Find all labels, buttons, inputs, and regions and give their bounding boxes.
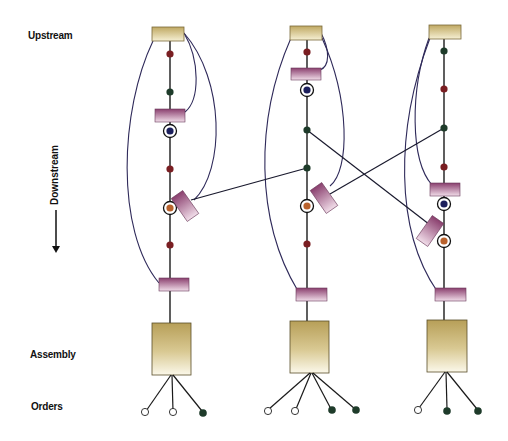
green-node[interactable]	[440, 124, 447, 131]
column-1	[141, 27, 206, 417]
flow-curves	[127, 33, 437, 291]
assembly-box[interactable]	[152, 323, 191, 375]
downstream-arrow-icon	[52, 210, 60, 253]
red-node[interactable]	[440, 163, 447, 170]
order-filled[interactable]	[328, 406, 336, 414]
assembly-box[interactable]	[427, 320, 467, 372]
orange-node[interactable]	[303, 202, 310, 209]
order-open[interactable]	[414, 406, 421, 413]
buffer-bar[interactable]	[155, 109, 185, 122]
source-box[interactable]	[290, 26, 322, 40]
orange-node[interactable]	[166, 204, 173, 211]
red-node[interactable]	[166, 50, 173, 57]
red-node[interactable]	[303, 48, 310, 55]
blue-node[interactable]	[440, 200, 447, 207]
buffer-bar[interactable]	[159, 278, 189, 291]
red-node[interactable]	[303, 240, 310, 247]
green-node[interactable]	[303, 164, 310, 171]
buffer-bar[interactable]	[291, 68, 321, 80]
column-3	[414, 25, 481, 415]
red-node[interactable]	[166, 165, 173, 172]
order-filled[interactable]	[199, 409, 207, 417]
assembly-box[interactable]	[290, 321, 329, 373]
source-box[interactable]	[152, 27, 184, 41]
order-filled[interactable]	[352, 406, 360, 414]
column-2	[264, 26, 359, 415]
blue-node[interactable]	[166, 127, 173, 134]
buffer-bar[interactable]	[296, 288, 327, 301]
order-open[interactable]	[264, 407, 271, 414]
order-filled[interactable]	[474, 407, 482, 415]
tilted-buffer[interactable]	[310, 183, 338, 214]
buffer-bar[interactable]	[435, 288, 466, 301]
green-node[interactable]	[166, 88, 173, 95]
green-node[interactable]	[440, 47, 447, 54]
buffer-bar[interactable]	[430, 183, 460, 196]
order-open[interactable]	[141, 408, 148, 415]
order-filled[interactable]	[443, 407, 451, 415]
green-node[interactable]	[303, 126, 310, 133]
order-open[interactable]	[169, 408, 176, 415]
order-open[interactable]	[291, 407, 298, 414]
red-node[interactable]	[166, 241, 173, 248]
red-node[interactable]	[440, 85, 447, 92]
orange-node[interactable]	[440, 237, 447, 244]
source-box[interactable]	[429, 25, 461, 39]
blue-node[interactable]	[303, 86, 310, 93]
supply-chain-diagram	[0, 0, 508, 441]
